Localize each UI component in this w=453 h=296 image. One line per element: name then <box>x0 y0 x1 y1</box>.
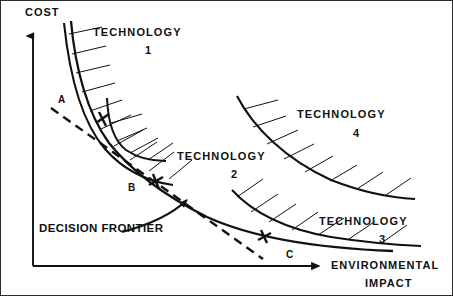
technology-frontier-diagram: COST TECHNOLOGY 1 TECHNOLOGY 2 TECHNOLOG… <box>0 0 453 296</box>
technology-2-hatching <box>111 114 173 160</box>
technology-4-label: TECHNOLOGY <box>297 109 386 120</box>
environmental-impact-label-line1: ENVIRONMENTAL <box>331 260 439 271</box>
environmental-impact-label-line2: IMPACT <box>365 278 412 289</box>
point-a-label: A <box>58 95 66 105</box>
technology-3-label: TECHNOLOGY <box>319 216 408 227</box>
technology-3-number: 3 <box>379 234 386 245</box>
cost-axis-label: COST <box>25 7 60 18</box>
point-c-label: C <box>286 250 294 260</box>
technology-2-label: TECHNOLOGY <box>177 151 266 162</box>
diagram-canvas <box>1 1 453 296</box>
technology-1-curve-group <box>64 23 192 185</box>
point-b-label: B <box>128 183 136 193</box>
technology-2-number: 2 <box>231 169 238 180</box>
technology-4-number: 4 <box>353 128 360 139</box>
technology-1-label: TECHNOLOGY <box>93 27 182 38</box>
technology-1-number: 1 <box>145 45 152 56</box>
decision-frontier-label: DECISION FRONTIER <box>39 223 163 235</box>
